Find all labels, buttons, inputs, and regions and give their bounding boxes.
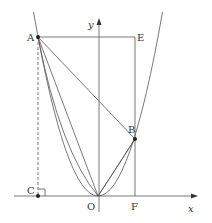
diagram-canvas: A B C E F O x y [0, 0, 212, 223]
label-a: A [26, 32, 35, 43]
point-b [133, 137, 137, 141]
segment-oa [38, 37, 98, 196]
y-axis-arrow-icon [97, 18, 102, 25]
label-f: F [131, 201, 138, 212]
segment-ab [38, 37, 135, 139]
x-axis-arrow-icon [191, 194, 198, 199]
label-e: E [137, 32, 144, 43]
label-c: C [27, 185, 35, 196]
label-y-axis: y [87, 19, 94, 30]
segment-ob [98, 139, 135, 196]
label-o: O [87, 201, 95, 212]
point-a [36, 35, 40, 39]
point-c [36, 194, 40, 198]
label-x-axis: x [188, 203, 194, 214]
label-b: B [128, 124, 135, 135]
